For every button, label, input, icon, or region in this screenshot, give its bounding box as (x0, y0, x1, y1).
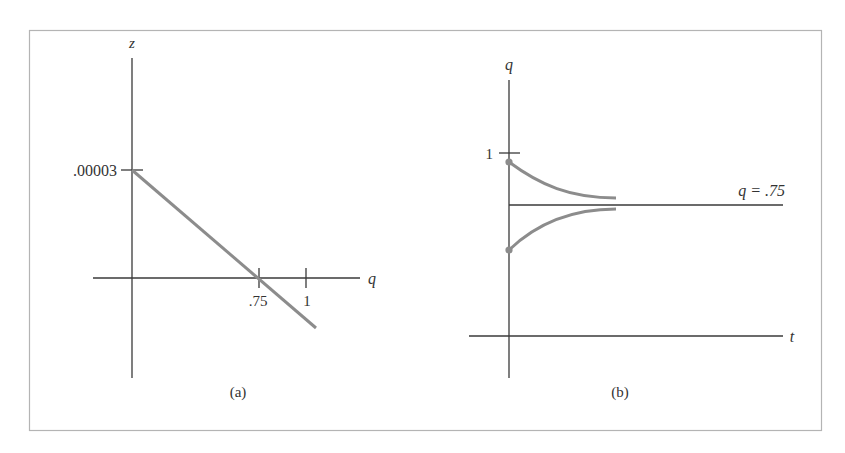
figure-frame (30, 31, 822, 431)
panel-a-x-tick-label-1: 1 (303, 293, 311, 309)
panel-b: q 1 q = .75 t (b) (469, 56, 795, 401)
panel-b-start-point-lower (505, 246, 512, 253)
panel-a-z-axis-label: z (128, 35, 135, 51)
panel-b-curve-upper (509, 162, 616, 198)
panel-a-z-line (132, 170, 316, 328)
panel-a-x-tick-label-075: .75 (249, 293, 268, 309)
panel-b-q-axis-label: q (505, 56, 513, 74)
panel-b-equilibrium-label: q = .75 (738, 182, 785, 200)
panel-b-start-point-upper (505, 158, 512, 165)
panel-a-q-axis-label: q (368, 270, 376, 288)
panel-a: z .00003 q .75 1 (a) (73, 35, 376, 401)
panel-b-curve-lower (509, 209, 616, 250)
figure: z .00003 q .75 1 (a) q 1 q = .75 t (b) (0, 0, 845, 453)
panel-b-caption: (b) (611, 384, 629, 401)
panel-b-t-axis-label: t (790, 328, 795, 345)
panel-a-y-tick-label: .00003 (73, 162, 117, 179)
panel-b-y-tick-label: 1 (486, 146, 494, 162)
panel-a-caption: (a) (230, 384, 247, 401)
